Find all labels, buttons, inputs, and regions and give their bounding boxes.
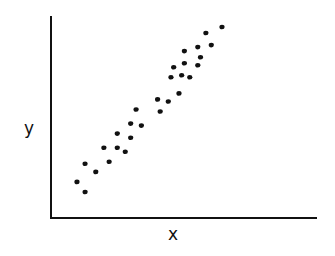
scatter-plot	[0, 0, 335, 256]
data-point	[83, 190, 88, 195]
data-point	[101, 145, 106, 150]
data-point	[171, 65, 176, 70]
data-point	[182, 49, 187, 54]
data-point	[168, 75, 173, 80]
data-point	[179, 73, 184, 78]
x-axis-label: x	[168, 226, 178, 243]
data-point	[209, 43, 214, 48]
data-point	[195, 63, 200, 68]
data-points	[74, 25, 224, 195]
data-point	[195, 45, 200, 50]
data-point	[107, 160, 112, 165]
data-point	[123, 150, 128, 155]
data-point	[93, 170, 98, 175]
data-point	[128, 121, 133, 126]
data-point	[128, 135, 133, 140]
data-point	[198, 55, 203, 60]
data-point	[134, 107, 139, 112]
data-point	[166, 99, 171, 104]
data-point	[139, 123, 144, 128]
data-point	[219, 25, 224, 30]
data-point	[182, 61, 187, 66]
y-axis-label: y	[24, 120, 34, 137]
data-point	[155, 97, 160, 102]
data-point	[203, 31, 208, 36]
data-point	[83, 162, 88, 167]
data-point	[158, 109, 163, 114]
data-point	[115, 131, 120, 136]
data-point	[187, 75, 192, 80]
data-point	[176, 91, 181, 96]
data-point	[74, 180, 79, 185]
data-point	[115, 145, 120, 150]
